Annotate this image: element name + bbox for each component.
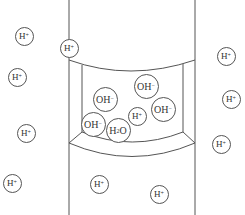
ion-channel-diagram: H+H+H+H+H+H+H+H+H+H+OH−OH−OH−H+OH−H2O — [0, 0, 245, 215]
hydrogen-ion: H+ — [3, 174, 22, 193]
hydroxide-ion: OH− — [81, 112, 106, 137]
top-band-outer-curve — [69, 60, 195, 71]
hydrogen-ion: H+ — [217, 47, 236, 66]
hydroxide-ion: OH− — [151, 97, 176, 122]
hydrogen-ion: H+ — [128, 107, 147, 126]
hydroxide-ion: OH− — [134, 74, 159, 99]
hydrogen-ion: H+ — [17, 124, 36, 143]
hydroxide-ion: OH− — [93, 87, 118, 112]
hydrogen-ion: H+ — [60, 39, 79, 58]
hydrogen-ion: H+ — [222, 90, 241, 109]
bottom-right-corner — [183, 132, 195, 143]
channel-walls — [0, 0, 245, 215]
hydrogen-ion: H+ — [15, 27, 34, 46]
hydrogen-ion: H+ — [150, 185, 169, 204]
hydrogen-ion: H+ — [8, 68, 27, 87]
hydrogen-ion: H+ — [212, 135, 231, 154]
water-molecule: H2O — [106, 118, 131, 143]
bottom-band-outer-curve — [69, 143, 195, 157]
bottom-left-corner — [69, 132, 82, 143]
hydrogen-ion: H+ — [90, 175, 109, 194]
